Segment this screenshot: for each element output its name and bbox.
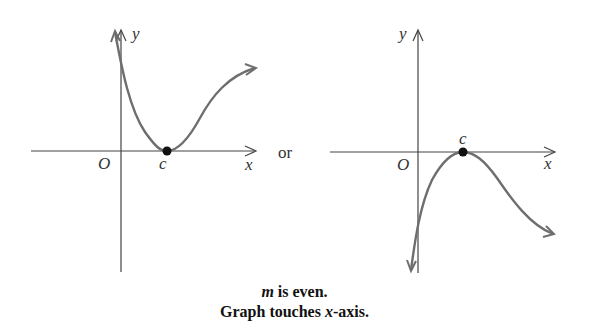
- diagram-canvas: [0, 0, 589, 323]
- caption-var-x: x: [325, 303, 333, 320]
- caption-line-2: Graph touches x-axis.: [0, 304, 589, 320]
- left-origin-label: O: [98, 155, 110, 172]
- left-graph: [31, 30, 256, 272]
- right-x-label: x: [544, 155, 552, 172]
- right-point-c: [459, 148, 468, 157]
- left-x-label: x: [245, 156, 253, 173]
- left-point-label: c: [159, 155, 167, 172]
- right-curve: [411, 152, 553, 270]
- or-separator: or: [278, 144, 292, 161]
- left-y-label: y: [132, 25, 140, 42]
- caption-line2-pre: Graph touches: [220, 303, 325, 320]
- right-graph: [330, 30, 555, 273]
- right-y-label: y: [399, 25, 407, 42]
- caption-line1-text: is even.: [274, 283, 328, 300]
- caption-line-1: m is even.: [0, 284, 589, 300]
- caption-var-m: m: [261, 283, 273, 300]
- left-curve: [115, 32, 255, 151]
- caption-line2-rest: -axis.: [333, 303, 369, 320]
- right-point-label: c: [459, 130, 467, 147]
- right-origin-label: O: [397, 156, 409, 173]
